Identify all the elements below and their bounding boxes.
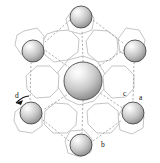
structure-figure: a b c d: [0, 0, 160, 163]
central-large-atom: [64, 62, 102, 100]
structure-diagram: a b c d: [0, 0, 160, 163]
atom-bottom: [70, 134, 92, 156]
label-d: d: [15, 91, 19, 100]
label-a: a: [139, 93, 143, 102]
atom-upper-left: [22, 40, 44, 62]
ring-petal-bottom-left: [44, 103, 77, 133]
ring-petal-right: [103, 66, 134, 98]
label-b: b: [101, 140, 105, 149]
ring-petal-bottom-right: [87, 103, 119, 133]
atom-lower-left: [20, 102, 42, 124]
atom-top: [70, 6, 92, 28]
atom-upper-right: [124, 40, 146, 62]
bond-center-bottom: [82, 100, 83, 133]
atom-lower-right: [122, 102, 144, 124]
ring-petal-top-left: [42, 30, 79, 62]
